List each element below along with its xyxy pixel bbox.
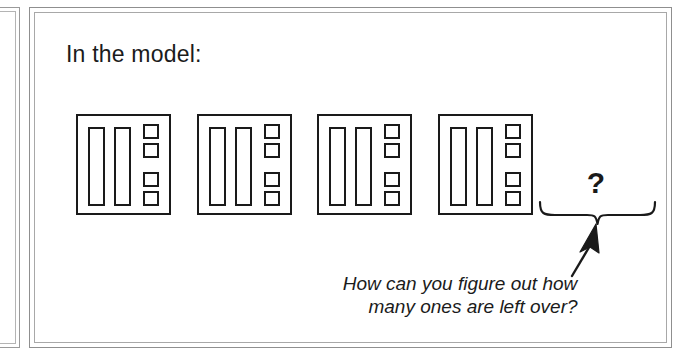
model-block <box>76 114 171 215</box>
tens-rods-group <box>209 127 253 206</box>
one-unit <box>264 172 280 187</box>
tens-rods-group <box>450 127 494 206</box>
ten-rod <box>88 127 105 206</box>
model-block <box>438 114 533 215</box>
ones-units-group <box>384 124 404 210</box>
ten-rod <box>355 127 372 206</box>
model-panel: In the model: <box>29 7 672 348</box>
ten-rod <box>235 127 252 206</box>
one-unit <box>384 191 400 206</box>
ten-rod <box>329 127 346 206</box>
adjacent-cropped-panel <box>0 7 20 348</box>
base-ten-blocks-row <box>76 114 536 220</box>
one-unit <box>384 143 400 158</box>
caption-text: How can you figure out how many ones are… <box>300 272 620 318</box>
ten-rod <box>209 127 226 206</box>
tens-rods-group <box>329 127 373 206</box>
caption-line-2: many ones are left over? <box>300 295 620 318</box>
ten-rod <box>476 127 493 206</box>
one-unit <box>384 124 400 139</box>
adjacent-cropped-panel-inner-border <box>0 11 16 344</box>
tens-rods-group <box>88 127 132 206</box>
ten-rod <box>114 127 131 206</box>
one-unit <box>264 191 280 206</box>
page-root: In the model: <box>0 0 690 361</box>
one-unit <box>505 143 521 158</box>
one-unit <box>264 143 280 158</box>
caption-line-1: How can you figure out how <box>300 272 620 295</box>
question-mark-label: ? <box>578 166 614 200</box>
model-block <box>197 114 292 215</box>
ones-units-group <box>143 124 163 210</box>
one-unit <box>143 143 159 158</box>
one-unit <box>505 191 521 206</box>
model-block <box>317 114 412 215</box>
ones-units-group <box>264 124 284 210</box>
one-unit <box>384 172 400 187</box>
one-unit <box>143 191 159 206</box>
ones-units-group <box>505 124 525 210</box>
ten-rod <box>450 127 467 206</box>
page-title: In the model: <box>66 41 202 68</box>
one-unit <box>264 124 280 139</box>
one-unit <box>505 124 521 139</box>
one-unit <box>143 172 159 187</box>
one-unit <box>143 124 159 139</box>
one-unit <box>505 172 521 187</box>
